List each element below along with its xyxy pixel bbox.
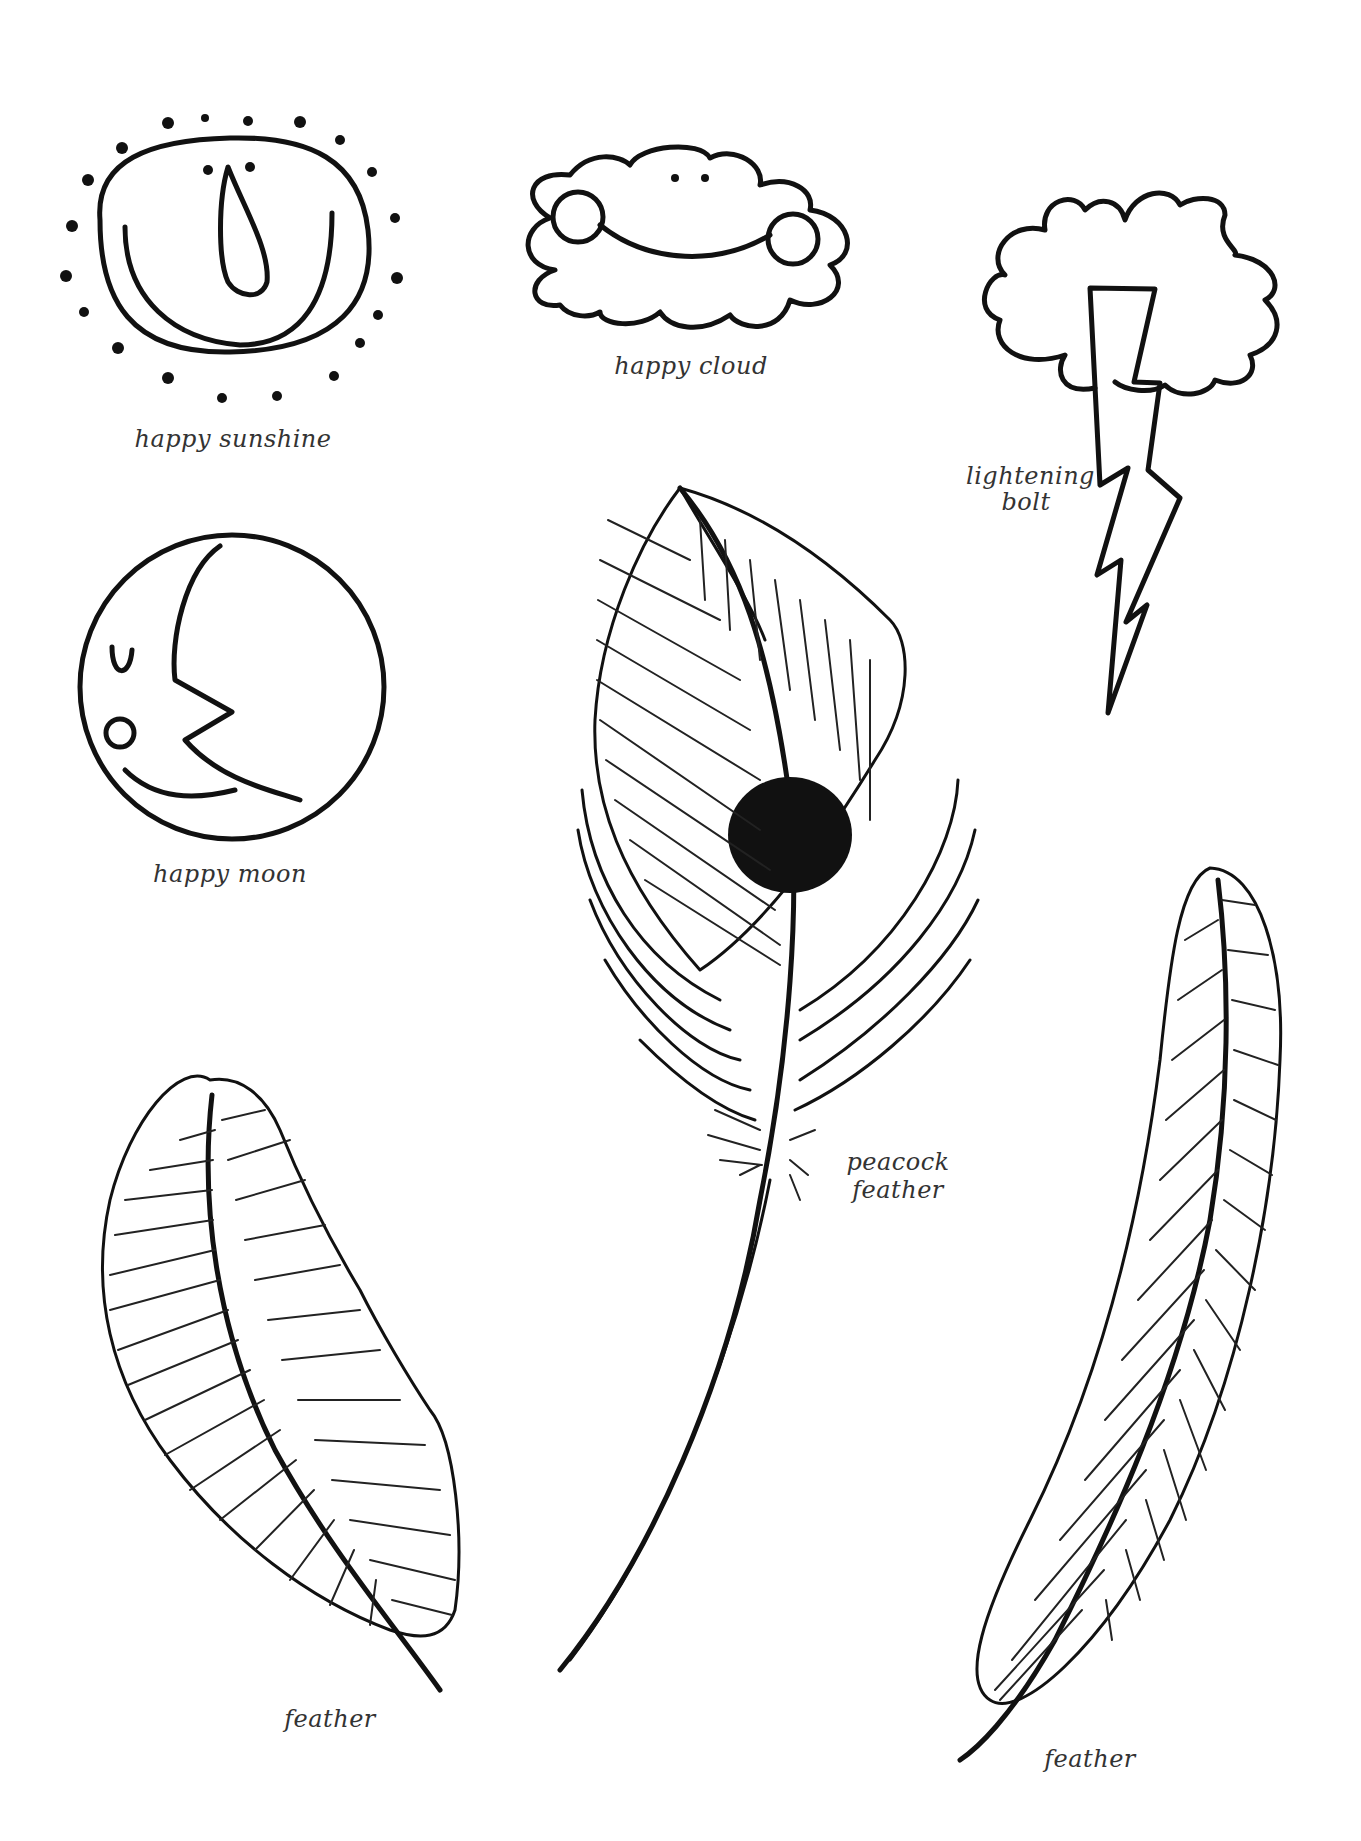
lightning-label-line2: bolt [966,488,1086,516]
peacock-label-line2: feather [838,1176,958,1204]
lightning-icon [984,193,1277,713]
peacock-label-line1: peacock [838,1148,958,1176]
feather-left-icon [103,1076,459,1690]
moon-icon [80,535,384,839]
coloring-sheet: happy sunshine happy cloud lightening bo… [0,0,1361,1841]
feather-left-label: feather [275,1705,385,1733]
cloud-icon [528,147,847,327]
sunshine-label: happy sunshine [128,425,338,453]
moon-label: happy moon [145,860,315,888]
cloud-label: happy cloud [606,352,776,380]
feather-right-label: feather [1035,1745,1145,1773]
peacock-feather-icon [560,488,978,1670]
sun-icon [60,114,403,403]
lightning-label-line1: lightening [966,462,1086,490]
feather-right-icon [960,868,1281,1760]
